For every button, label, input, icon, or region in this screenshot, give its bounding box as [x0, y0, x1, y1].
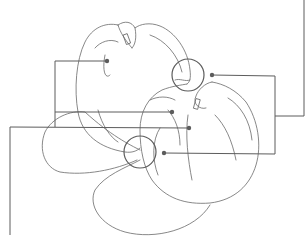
detail-circle-upper: [172, 59, 204, 91]
leader-dot: [187, 126, 191, 130]
pumpkin-diagram: [0, 0, 307, 246]
leader-dot: [170, 110, 174, 114]
leader-dot: [210, 73, 214, 77]
leader-dot: [105, 59, 109, 63]
lobes: [42, 112, 210, 235]
upper-pumpkin: [76, 22, 190, 152]
leader-dot: [162, 151, 166, 155]
upper-stem: [123, 34, 130, 45]
lower-pumpkin: [140, 82, 259, 203]
leader-lines: [10, 0, 304, 235]
